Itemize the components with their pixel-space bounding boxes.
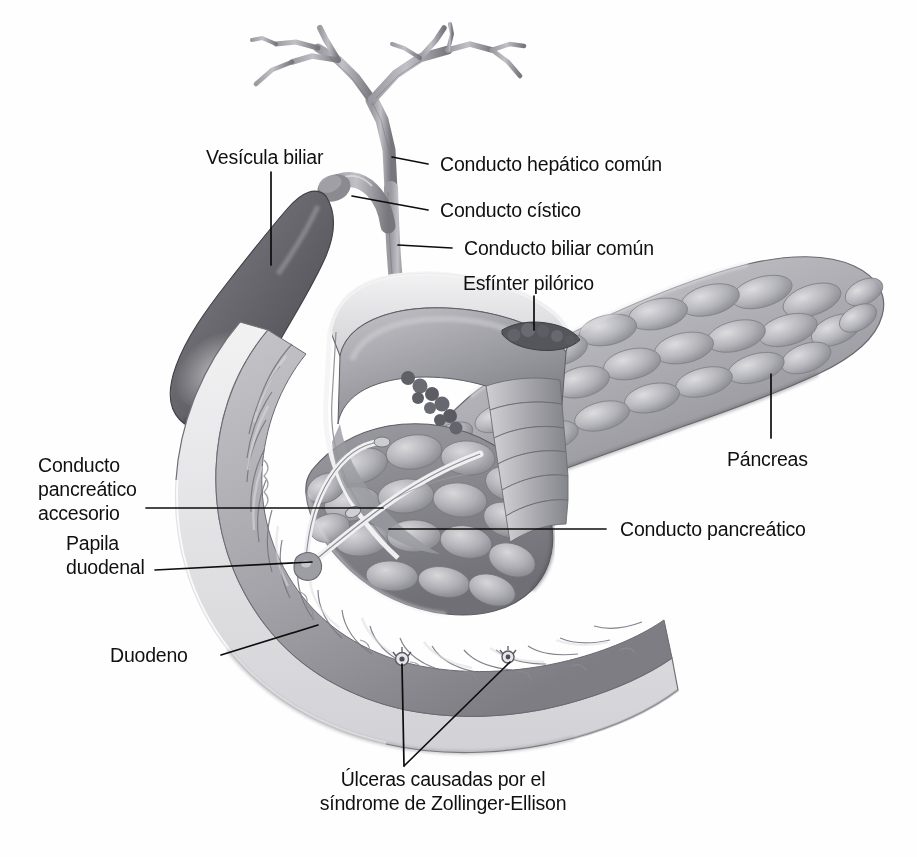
label-pancreas: Páncreas	[727, 448, 808, 470]
label-cystic-duct: Conducto cístico	[440, 199, 581, 221]
label-common-hepatic-duct: Conducto hepático común	[440, 153, 662, 175]
label-pyloric-sphincter: Esfínter pilórico	[463, 272, 594, 294]
label-accessory-duct-line1: Conducto	[38, 454, 120, 476]
label-common-bile-duct: Conducto biliar común	[464, 237, 654, 259]
label-pancreatic-duct: Conducto pancreático	[620, 518, 806, 540]
duodenal-papilla	[294, 553, 322, 581]
label-ulcers-line1: Úlceras causadas por el	[341, 768, 546, 790]
label-duodenum: Duodeno	[110, 644, 188, 666]
label-accessory-duct-line3: accesorio	[38, 502, 120, 524]
anatomy-figure: Vesícula biliar Conducto hepático común …	[0, 0, 917, 857]
label-papilla-line2: duodenal	[66, 556, 145, 578]
label-gallbladder: Vesícula biliar	[206, 146, 324, 168]
label-papilla-line1: Papila	[66, 532, 119, 554]
label-accessory-duct-line2: pancreático	[38, 478, 137, 500]
label-ulcers-line2: síndrome de Zollinger-Ellison	[320, 792, 567, 814]
